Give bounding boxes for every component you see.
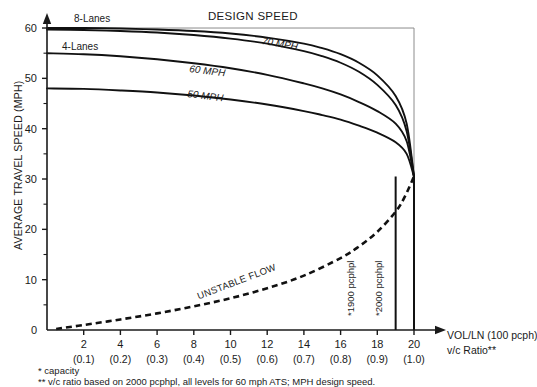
x-sub-tick-label: (0.1) <box>64 353 104 365</box>
y-tick-label: 60 <box>15 22 37 34</box>
annotation-2000-pcphpl: *2000 pcphpl <box>373 261 384 316</box>
x-tick-label: 20 <box>397 338 431 350</box>
x-sub-tick-label: (0.6) <box>247 353 287 365</box>
chart-title: DESIGN SPEED <box>208 11 298 23</box>
x-tick-label: 4 <box>103 338 137 350</box>
y-tick-label: 30 <box>15 173 37 185</box>
y-tick-label: 20 <box>15 223 37 235</box>
x-tick-label: 6 <box>140 338 174 350</box>
y-tick-label: 10 <box>15 274 37 286</box>
x-sub-tick-label: (0.2) <box>100 353 140 365</box>
y-tick-label: 40 <box>15 123 37 135</box>
x-tick-label: 10 <box>214 338 248 350</box>
annotation-1900-pcphpl: *1900 pcphpl <box>345 261 356 316</box>
x-tick-label: 12 <box>250 338 284 350</box>
x-sub-tick-label: (0.7) <box>284 353 324 365</box>
x-sub-tick-label: (0.4) <box>174 353 214 365</box>
x-axis-title-line1: VOL/LN (100 pcph) <box>447 330 537 341</box>
x-sub-tick-label: (0.3) <box>137 353 177 365</box>
y-tick-label: 50 <box>15 72 37 84</box>
x-tick-label: 14 <box>287 338 321 350</box>
capacity-lines <box>396 176 414 330</box>
series-label-8-lanes: 8-Lanes <box>74 14 110 24</box>
series-label-4-lanes: 4-Lanes <box>62 42 98 52</box>
x-tick-label: 16 <box>324 338 358 350</box>
footnote-vc-ratio: ** v/c ratio based on 2000 pcphpl, all l… <box>38 376 375 387</box>
x-sub-tick-label: (0.8) <box>321 353 361 365</box>
x-tick-label: 18 <box>360 338 394 350</box>
x-tick-label: 2 <box>67 338 101 350</box>
x-sub-tick-label: (0.5) <box>211 353 251 365</box>
x-sub-tick-label: (0.9) <box>357 353 397 365</box>
x-axis-title-line2: v/c Ratio** <box>447 345 496 356</box>
x-sub-tick-label: (1.0) <box>394 353 434 365</box>
axis-layer <box>42 13 446 335</box>
y-tick-label: 0 <box>15 324 37 336</box>
series-curve <box>56 176 414 328</box>
footnote-capacity: * capacity <box>38 365 79 376</box>
x-tick-label: 8 <box>177 338 211 350</box>
